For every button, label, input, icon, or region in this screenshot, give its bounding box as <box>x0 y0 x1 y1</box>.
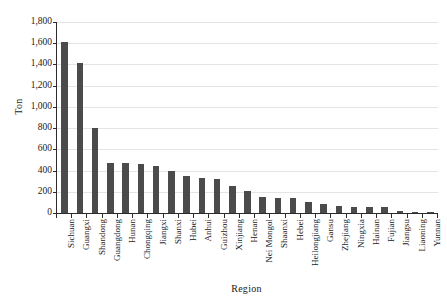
x-axis-tickmark <box>56 214 57 218</box>
x-axis-tickmark <box>361 214 362 218</box>
x-axis-tickmark <box>315 214 316 218</box>
x-axis-tick-label: Zhejiang <box>341 219 350 251</box>
x-axis-tick-label: Gansu <box>326 219 335 242</box>
x-axis-tick-label: Hebei <box>296 219 305 241</box>
x-axis-tick-label: Chongqing <box>143 219 152 259</box>
x-axis-tickmark <box>163 214 164 218</box>
x-axis-tick-label: Guizhou <box>220 219 229 250</box>
bar[interactable] <box>199 178 206 213</box>
x-axis-tick-label: Xinjiang <box>235 219 244 251</box>
x-axis-title-label: Region <box>231 283 262 294</box>
x-axis-tickmark <box>376 214 377 218</box>
x-axis-tickmark <box>269 214 270 218</box>
x-axis-tickmark <box>346 214 347 218</box>
bar-chart: Ton 02004006008001,0001,2001,4001,6001,8… <box>0 0 447 307</box>
x-axis-tickmark <box>224 214 225 218</box>
bar[interactable] <box>61 42 68 213</box>
x-axis-tick-label: Shanxi <box>174 219 183 244</box>
x-axis-tickmark <box>330 214 331 218</box>
bars-layer <box>57 22 438 213</box>
x-axis-tick-label: Nei Mongol <box>265 219 274 263</box>
x-axis-tickmark <box>391 214 392 218</box>
x-axis-tickmark <box>407 214 408 218</box>
y-axis-title-label: Ton <box>13 98 24 114</box>
x-axis-tick-label: Liaoning <box>418 219 427 252</box>
y-axis-tick-label: 1,400 <box>31 60 52 70</box>
y-axis-tick-label: 200 <box>38 187 52 197</box>
x-axis-tickmark <box>254 214 255 218</box>
x-axis-tick-label: Fujian <box>387 219 396 242</box>
y-axis-tick-label: 1,800 <box>31 17 52 27</box>
x-axis-tick-label: Shaanxi <box>280 219 289 248</box>
x-axis-tickmark <box>239 214 240 218</box>
bar[interactable] <box>259 197 266 213</box>
y-axis-tick-label: 400 <box>38 166 52 176</box>
bar[interactable] <box>153 166 160 213</box>
x-axis-tickmark <box>437 214 438 218</box>
y-axis-tick-label: 800 <box>38 123 52 133</box>
y-axis-tick-label: 1,200 <box>31 81 52 91</box>
bar[interactable] <box>305 202 312 213</box>
y-axis-tick-labels: 02004006008001,0001,2001,4001,6001,800 <box>24 0 52 213</box>
bar[interactable] <box>351 207 358 213</box>
bar[interactable] <box>397 211 404 213</box>
bar[interactable] <box>77 63 84 213</box>
x-axis-tick-label: Heilongjiang <box>311 219 320 266</box>
x-axis-tick-label: Jiangsu <box>402 219 411 246</box>
y-axis-tick-label: 0 <box>47 208 52 218</box>
x-axis-tickmark <box>86 214 87 218</box>
x-axis-tickmark <box>193 214 194 218</box>
x-axis-tickmark <box>102 214 103 218</box>
x-axis-tickmark <box>208 214 209 218</box>
x-axis-tick-label: Shandong <box>98 219 107 255</box>
y-axis-tick-label: 1,600 <box>31 38 52 48</box>
x-axis-tick-label: Yunnan <box>433 219 442 247</box>
bar[interactable] <box>381 207 388 213</box>
x-axis-tick-label: Henan <box>250 219 259 243</box>
bar[interactable] <box>168 171 175 213</box>
bar[interactable] <box>183 176 190 213</box>
x-axis-tick-label: Hainan <box>372 219 381 245</box>
x-axis-tick-label: Hubei <box>189 219 198 241</box>
bar[interactable] <box>320 204 327 213</box>
x-axis-tickmark <box>147 214 148 218</box>
x-axis-tick-label: Ningxia <box>357 219 366 248</box>
bar[interactable] <box>107 163 114 213</box>
x-axis-tickmark <box>71 214 72 218</box>
bar[interactable] <box>138 164 145 213</box>
x-axis-tick-label: Guangxi <box>82 219 91 250</box>
bar[interactable] <box>427 212 434 213</box>
plot-area <box>56 22 438 214</box>
x-axis-tickmark <box>132 214 133 218</box>
bar[interactable] <box>366 207 373 213</box>
bar[interactable] <box>122 163 129 213</box>
x-axis-tick-label: Anhui <box>204 219 213 242</box>
x-axis-tickmark <box>178 214 179 218</box>
y-axis-tick-label: 1,000 <box>31 102 52 112</box>
x-axis-tick-label: Hunan <box>128 219 137 243</box>
y-axis-tick-label: 600 <box>38 145 52 155</box>
x-axis-tick-labels: SichuanGuangxiShandongGuangdongHunanChon… <box>56 219 437 281</box>
x-axis-tickmark <box>300 214 301 218</box>
bar[interactable] <box>336 206 343 213</box>
bar[interactable] <box>92 128 99 213</box>
bar[interactable] <box>214 179 221 213</box>
x-axis-title: Region <box>56 283 437 294</box>
x-axis-tick-label: Sichuan <box>67 219 76 248</box>
bar[interactable] <box>275 198 282 213</box>
x-axis-tick-label: Guangdong <box>113 219 122 261</box>
x-axis-tickmark <box>117 214 118 218</box>
bar[interactable] <box>244 191 251 213</box>
bar[interactable] <box>290 198 297 213</box>
x-axis-tick-label: Jiangxi <box>159 219 168 245</box>
bar[interactable] <box>229 186 236 213</box>
x-axis-tickmark <box>422 214 423 218</box>
x-axis-tickmark <box>285 214 286 218</box>
bar[interactable] <box>412 212 419 213</box>
